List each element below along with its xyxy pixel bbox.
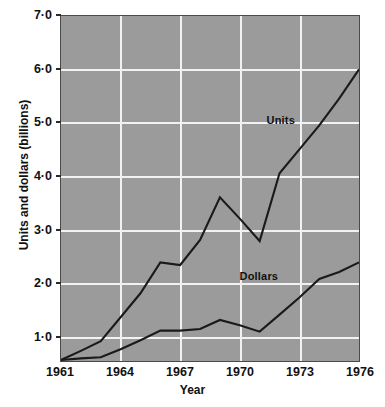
- series-line-dollars: [61, 262, 359, 360]
- series-line-units: [61, 69, 359, 360]
- y-axis-ticks: 7·06·05·04·03·02·01·0: [0, 0, 52, 407]
- y-tick-label: 6·0: [8, 63, 52, 76]
- x-tick-label: 1967: [150, 366, 210, 379]
- y-tick-label: 3·0: [8, 224, 52, 237]
- y-tick-label: 2·0: [8, 277, 52, 290]
- y-tick-mark: [56, 336, 61, 338]
- x-tick-label: 1961: [30, 366, 90, 379]
- y-tick-label: 4·0: [8, 170, 52, 183]
- y-tick-mark: [56, 68, 61, 70]
- x-axis-ticks: 196119641967197019731976: [0, 362, 385, 382]
- y-tick-label: 5·0: [8, 116, 52, 129]
- x-axis-title: Year: [0, 383, 385, 397]
- series-label-units: Units: [267, 114, 296, 126]
- y-tick-mark: [56, 121, 61, 123]
- chart-figure: Units and dollars (billions) 7·06·05·04·…: [0, 0, 385, 407]
- x-tick-label: 1976: [330, 366, 385, 379]
- caption-strip: [0, 399, 385, 407]
- y-tick-mark: [56, 282, 61, 284]
- y-tick-label: 7·0: [8, 9, 52, 22]
- y-tick-mark: [56, 229, 61, 231]
- plot-area: Units Dollars: [60, 15, 360, 362]
- x-tick-label: 1973: [270, 366, 330, 379]
- series-lines: [61, 16, 359, 361]
- x-tick-label: 1964: [90, 366, 150, 379]
- x-tick-label: 1970: [210, 366, 270, 379]
- y-tick-label: 1·0: [8, 331, 52, 344]
- y-tick-mark: [56, 14, 61, 16]
- y-tick-mark: [56, 175, 61, 177]
- series-label-dollars: Dollars: [240, 270, 279, 282]
